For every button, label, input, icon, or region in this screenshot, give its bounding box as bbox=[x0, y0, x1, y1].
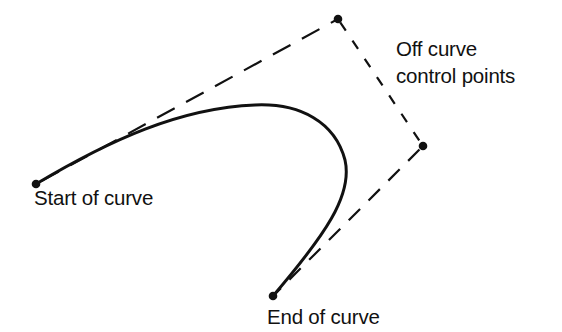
end-of-curve-label: End of curve bbox=[267, 303, 380, 330]
control-label-line-2: control points bbox=[396, 62, 515, 89]
control-point-2-dot bbox=[419, 142, 428, 151]
off-curve-control-points-label: Off curve control points bbox=[396, 35, 515, 89]
control-polygon bbox=[36, 19, 423, 296]
control-label-line-1: Off curve bbox=[396, 35, 515, 62]
control-line-control2-to-end bbox=[273, 146, 423, 296]
start-of-curve-label: Start of curve bbox=[34, 184, 153, 211]
control-point-1-dot bbox=[334, 15, 343, 24]
end-point-dot bbox=[269, 292, 278, 301]
